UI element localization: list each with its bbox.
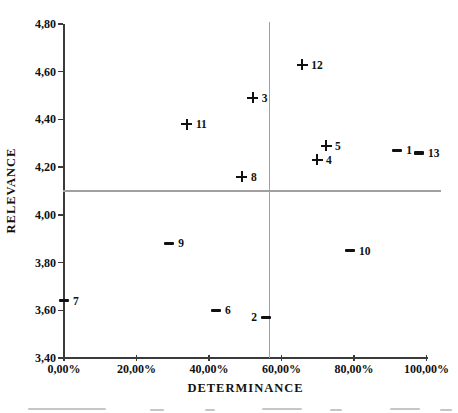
point-5-label: 5	[335, 139, 341, 153]
point-10-marker	[345, 249, 355, 253]
x-axis-title: DETERMINANCE	[63, 381, 428, 396]
y-tick-label: 4,40	[20, 112, 56, 126]
x-tick-mark	[136, 355, 138, 361]
y-tick-mark	[58, 119, 63, 121]
y-tick-label: 3,80	[20, 256, 56, 270]
y-tick-mark	[58, 214, 63, 216]
point-8-marker	[236, 171, 247, 182]
quadrant-horizontal-line	[63, 190, 441, 191]
y-tick-mark	[58, 23, 63, 25]
y-tick-mark	[58, 357, 63, 359]
point-13-marker	[414, 151, 424, 155]
y-tick-mark	[58, 262, 63, 264]
point-9-marker	[164, 242, 174, 246]
point-11-label: 11	[196, 117, 207, 131]
x-tick-mark	[63, 355, 65, 361]
point-13-label: 13	[428, 146, 440, 160]
point-12-label: 12	[311, 58, 323, 72]
point-6-label: 6	[225, 303, 231, 317]
x-axis-line	[63, 357, 428, 359]
x-tick-label: 60,00%	[250, 362, 314, 376]
x-tick-mark	[208, 355, 210, 361]
point-4-marker	[312, 154, 323, 165]
point-12-marker	[297, 59, 308, 70]
y-tick-label: 4,60	[20, 65, 56, 79]
point-1-marker	[392, 149, 402, 153]
y-tick-label: 4,00	[20, 208, 56, 222]
point-4-label: 4	[326, 153, 332, 167]
y-tick-label: 3,60	[20, 303, 56, 317]
point-9-label: 9	[178, 236, 184, 250]
y-tick-mark	[58, 71, 63, 73]
y-tick-mark	[58, 166, 63, 168]
point-1-label: 1	[406, 143, 412, 157]
x-tick-label: 40,00%	[177, 362, 241, 376]
point-6-marker	[211, 309, 221, 313]
x-tick-label: 100,00%	[395, 362, 458, 376]
point-3-label: 3	[262, 91, 268, 105]
y-tick-label: 4,80	[20, 17, 56, 31]
x-tick-label: 0,00%	[32, 362, 96, 376]
y-tick-label: 4,20	[20, 160, 56, 174]
x-tick-mark	[281, 355, 283, 361]
point-11-marker	[181, 119, 192, 130]
point-10-label: 10	[359, 244, 371, 258]
x-tick-mark	[353, 355, 355, 361]
x-tick-label: 80,00%	[322, 362, 386, 376]
point-7-label: 7	[73, 294, 79, 308]
point-3-marker	[247, 92, 258, 103]
point-5-marker	[321, 140, 332, 151]
point-2-marker	[261, 316, 271, 320]
point-7-marker	[59, 299, 69, 303]
point-8-label: 8	[251, 170, 257, 184]
scatter-plot: RELEVANCE DETERMINANCE 3,403,603,804,004…	[0, 0, 458, 413]
x-tick-mark	[426, 355, 428, 361]
point-2-label: 2	[235, 310, 257, 324]
y-axis-title: RELEVANCE	[4, 116, 19, 266]
y-tick-mark	[58, 310, 63, 312]
x-tick-label: 20,00%	[105, 362, 169, 376]
